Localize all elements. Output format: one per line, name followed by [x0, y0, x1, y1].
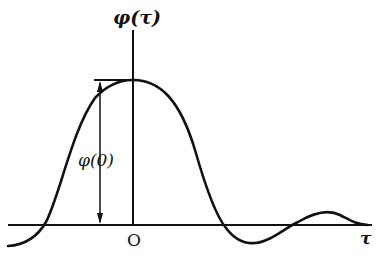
x-axis-label: τ — [360, 228, 371, 248]
y-axis-label: φ(τ) — [113, 6, 161, 28]
diagram-canvas — [0, 0, 382, 270]
peak-value-label: φ(0) — [78, 150, 114, 170]
origin-label: O — [127, 230, 141, 250]
autocorrelation-curve — [8, 80, 368, 246]
arrow-head-down-icon — [97, 213, 103, 224]
